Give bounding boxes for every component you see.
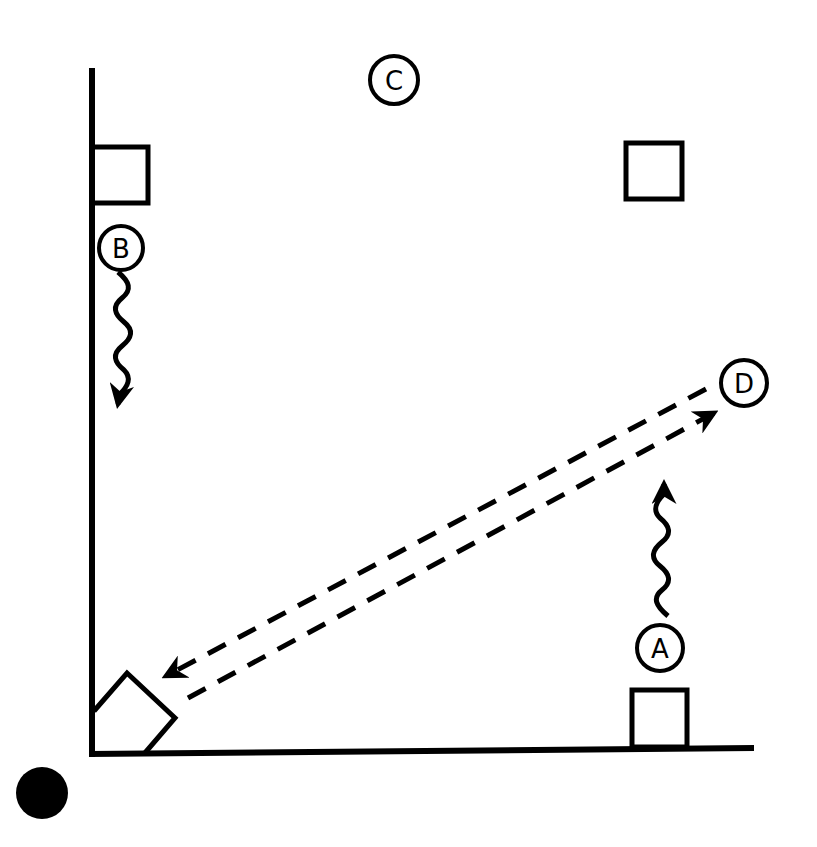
player-a: A xyxy=(637,625,683,671)
player-a-label: A xyxy=(651,634,669,664)
pass-arrow-to-bottom-left xyxy=(166,389,706,676)
cone-top-right xyxy=(626,143,682,199)
movement-arrow-b xyxy=(115,272,130,404)
player-b: B xyxy=(99,226,143,270)
player-d: D xyxy=(721,360,767,406)
ball-icon xyxy=(16,767,68,819)
pass-arrow-to-d xyxy=(188,413,714,698)
movement-arrow-a xyxy=(653,484,668,616)
cone-bottom-right xyxy=(632,690,687,747)
cone-top-left xyxy=(92,147,148,203)
player-d-label: D xyxy=(734,369,754,399)
play-diagram: C B D A xyxy=(0,0,817,847)
player-c: C xyxy=(370,56,418,104)
player-c-label: C xyxy=(385,66,403,96)
cone-bottom-left xyxy=(94,673,175,754)
player-b-label: B xyxy=(112,234,130,264)
